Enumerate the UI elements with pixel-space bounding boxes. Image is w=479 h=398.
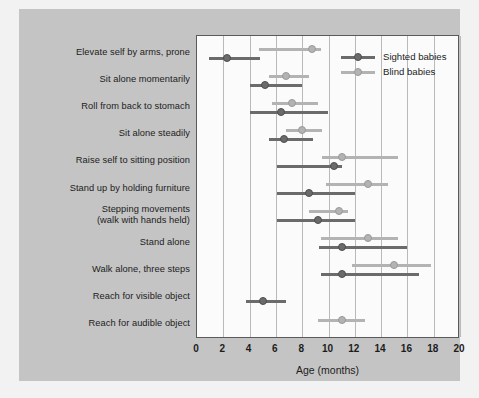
median-marker xyxy=(223,54,231,62)
interval-row xyxy=(197,216,458,225)
median-marker xyxy=(280,135,288,143)
y-axis-label-line: Stand alone xyxy=(140,237,190,248)
y-axis-label: Walk alone, three steps xyxy=(92,264,190,275)
y-axis-label-line: Reach for audible object xyxy=(89,318,190,329)
median-marker xyxy=(330,162,338,170)
median-marker xyxy=(338,153,346,161)
interval-range-bar xyxy=(321,273,420,276)
legend-label-blind: Blind babies xyxy=(383,66,435,77)
interval-range-bar xyxy=(277,192,355,195)
legend-marker-blind xyxy=(354,68,362,76)
median-marker xyxy=(314,216,322,224)
y-axis-label-line: Sit alone momentarily xyxy=(100,74,190,85)
median-marker xyxy=(338,270,346,278)
interval-row xyxy=(197,189,458,198)
median-marker xyxy=(288,99,296,107)
interval-range-bar xyxy=(269,138,312,141)
y-axis-label-line: Walk alone, three steps xyxy=(92,264,190,275)
median-marker xyxy=(338,243,346,251)
y-axis-label-line: Stand up by holding furniture xyxy=(70,183,190,194)
legend-label-sighted: Sighted babies xyxy=(383,51,446,62)
y-axis-label-line: Stepping movements xyxy=(97,204,190,215)
interval-range-bar xyxy=(326,183,388,186)
interval-row xyxy=(197,316,458,325)
interval-row xyxy=(197,135,458,144)
interval-row xyxy=(197,234,458,243)
y-axis-label: Stand alone xyxy=(140,237,190,248)
figure-container: Elevate self by arms, proneSit alone mom… xyxy=(0,0,479,398)
y-axis-label-line: Roll from back to stomach xyxy=(81,101,190,112)
interval-row xyxy=(197,261,458,270)
interval-row xyxy=(197,108,458,117)
interval-row xyxy=(197,270,458,279)
interval-row xyxy=(197,243,458,252)
y-axis-label-line: (walk with hands held) xyxy=(97,215,190,226)
median-marker xyxy=(282,72,290,80)
y-axis-label: Reach for visible object xyxy=(93,291,190,302)
interval-row xyxy=(197,207,458,216)
median-marker xyxy=(364,180,372,188)
y-axis-label: Sit alone steadily xyxy=(119,128,190,139)
y-axis-label: Elevate self by arms, prone xyxy=(76,47,190,58)
interval-range-bar xyxy=(319,246,407,249)
interval-row xyxy=(197,180,458,189)
median-marker xyxy=(335,207,343,215)
median-marker xyxy=(277,108,285,116)
x-axis-tick-label: 20 xyxy=(444,343,474,354)
y-axis-label: Roll from back to stomach xyxy=(81,101,190,112)
interval-range-bar xyxy=(321,237,399,240)
median-marker xyxy=(390,261,398,269)
interval-range-bar xyxy=(209,57,260,60)
interval-range-bar xyxy=(322,156,398,159)
y-axis-label-line: Elevate self by arms, prone xyxy=(76,47,190,58)
y-axis-label: Stepping movements(walk with hands held) xyxy=(97,204,190,226)
median-marker xyxy=(364,234,372,242)
chart-panel: Elevate self by arms, proneSit alone mom… xyxy=(19,9,460,381)
y-axis-label-line: Sit alone steadily xyxy=(119,128,190,139)
median-marker xyxy=(261,81,269,89)
interval-row xyxy=(197,162,458,171)
y-axis-label-line: Raise self to sitting position xyxy=(76,155,190,166)
gridline xyxy=(460,36,461,337)
y-axis-label: Raise self to sitting position xyxy=(76,155,190,166)
interval-row xyxy=(197,99,458,108)
interval-row xyxy=(197,153,458,162)
interval-row xyxy=(197,126,458,135)
median-marker xyxy=(259,297,267,305)
median-marker xyxy=(298,126,306,134)
median-marker xyxy=(305,189,313,197)
y-axis-label-line: Reach for visible object xyxy=(93,291,190,302)
interval-range-bar xyxy=(250,111,329,114)
x-axis-title: Age (months) xyxy=(196,364,459,376)
interval-range-bar xyxy=(250,84,303,87)
legend-marker-sighted xyxy=(354,53,362,61)
y-axis-label: Stand up by holding furniture xyxy=(70,183,190,194)
interval-row xyxy=(197,297,458,306)
interval-row xyxy=(197,81,458,90)
plot-area xyxy=(196,35,459,338)
median-marker xyxy=(308,45,316,53)
median-marker xyxy=(338,316,346,324)
y-axis-label: Sit alone momentarily xyxy=(100,74,190,85)
y-axis-label: Reach for audible object xyxy=(89,318,190,329)
